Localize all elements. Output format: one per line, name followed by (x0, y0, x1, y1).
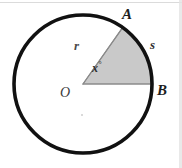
arc-length-label: s (150, 38, 155, 51)
background-speck (81, 114, 83, 116)
angle-variable: x (92, 61, 98, 75)
central-angle-label: x° (92, 61, 102, 74)
shaded-sector (83, 28, 152, 84)
degree-symbol: ° (99, 60, 102, 69)
circle-sector-drawing (0, 0, 182, 168)
geometry-figure: A B O s r x° (0, 0, 182, 168)
point-label-o: O (60, 86, 70, 100)
point-label-b: B (157, 83, 167, 98)
point-label-a: A (122, 7, 132, 22)
radius-label: r (74, 39, 79, 52)
